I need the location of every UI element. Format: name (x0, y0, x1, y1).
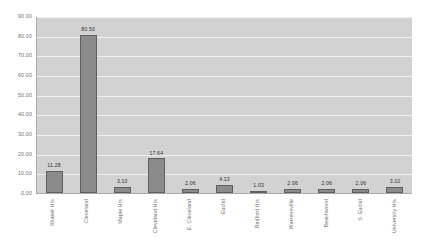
x-axis-tick: E. Cleveland (173, 195, 207, 252)
bar-slot: 80.50 (71, 17, 105, 193)
x-axis: Shaker HtsClevelandMaple HtsCleveland Ht… (36, 195, 412, 252)
y-axis-tick-label: 80.00 (18, 34, 32, 39)
x-axis-tick: Cleveland Hts (139, 195, 173, 252)
x-axis-tick-label: University Hts (392, 199, 397, 233)
y-axis-tick-label: 20.00 (18, 152, 32, 157)
bar-value-label: 2.06 (185, 181, 196, 186)
x-axis-tick-label: Shaker Hts (50, 199, 55, 226)
bar-slot: 1.03 (242, 17, 276, 193)
bar-value-label: 3.10 (117, 179, 128, 184)
x-axis-tick-label: Bedford Hts (256, 199, 261, 228)
x-axis-tick: S. Euclid (344, 195, 378, 252)
y-axis-tick-label: 0.00 (21, 191, 32, 196)
x-axis-tick: Cleveland (70, 195, 104, 252)
bars-layer: 11.2880.503.1017.642.064.131.032.062.062… (37, 17, 412, 193)
bar-value-label: 80.50 (81, 27, 95, 32)
bar[interactable] (352, 189, 369, 193)
plot-area: 11.2880.503.1017.642.064.131.032.062.062… (36, 17, 412, 194)
bar-value-label: 2.06 (287, 181, 298, 186)
x-axis-tick-label: Euclid (221, 199, 226, 214)
y-axis-tick-label: 40.00 (18, 113, 32, 118)
y-axis-tick-label: 90.00 (18, 14, 32, 19)
y-axis: 90.0080.0070.0060.0050.0040.0030.0020.00… (0, 0, 34, 200)
y-axis-tick-label: 70.00 (18, 54, 32, 59)
bar[interactable] (318, 189, 335, 193)
x-axis-tick: University Hts (378, 195, 412, 252)
x-axis-tick-label: Maple Hts (119, 199, 124, 224)
y-axis-tick-label: 60.00 (18, 73, 32, 78)
x-axis-tick-label: Beachwood (324, 199, 329, 227)
bar[interactable] (46, 171, 63, 193)
bar-slot: 3.10 (105, 17, 139, 193)
bar-value-label: 2.06 (321, 181, 332, 186)
x-axis-tick-label: S. Euclid (358, 199, 363, 221)
bar[interactable] (250, 191, 267, 193)
y-axis-tick-label: 30.00 (18, 132, 32, 137)
x-axis-tick: Beachwood (310, 195, 344, 252)
x-axis-tick: Bedford Hts (241, 195, 275, 252)
bar[interactable] (182, 189, 199, 193)
bar[interactable] (386, 187, 403, 193)
y-axis-tick-label: 50.00 (18, 93, 32, 98)
bar-value-label: 3.10 (390, 179, 401, 184)
x-axis-tick: Shaker Hts (36, 195, 70, 252)
x-axis-tick-label: E. Cleveland (187, 199, 192, 230)
bar-slot: 17.64 (139, 17, 173, 193)
x-axis-tick-label: Cleveland Hts (153, 199, 158, 233)
x-axis-tick: Maple Hts (104, 195, 138, 252)
bar-value-label: 2.06 (356, 181, 367, 186)
bar-slot: 2.06 (344, 17, 378, 193)
bar-slot: 3.10 (378, 17, 412, 193)
bar-value-label: 17.64 (149, 151, 163, 156)
x-axis-tick: Euclid (207, 195, 241, 252)
bar-slot: 2.06 (173, 17, 207, 193)
bar-slot: 11.28 (37, 17, 71, 193)
bar-value-label: 1.03 (253, 183, 264, 188)
bar[interactable] (284, 189, 301, 193)
x-axis-tick: Warrensville (275, 195, 309, 252)
bar-slot: 2.06 (310, 17, 344, 193)
bar[interactable] (148, 158, 165, 193)
bar-slot: 2.06 (276, 17, 310, 193)
bar[interactable] (216, 185, 233, 193)
y-axis-tick-label: 10.00 (18, 172, 32, 177)
bar-value-label: 4.13 (219, 177, 230, 182)
x-axis-tick-label: Warrensville (290, 199, 295, 229)
bar-chart: 90.0080.0070.0060.0050.0040.0030.0020.00… (0, 0, 431, 252)
x-axis-tick-label: Cleveland (85, 199, 90, 223)
bar-value-label: 11.28 (47, 163, 60, 168)
bar-slot: 4.13 (207, 17, 241, 193)
bar[interactable] (80, 35, 97, 193)
bar[interactable] (114, 187, 131, 193)
